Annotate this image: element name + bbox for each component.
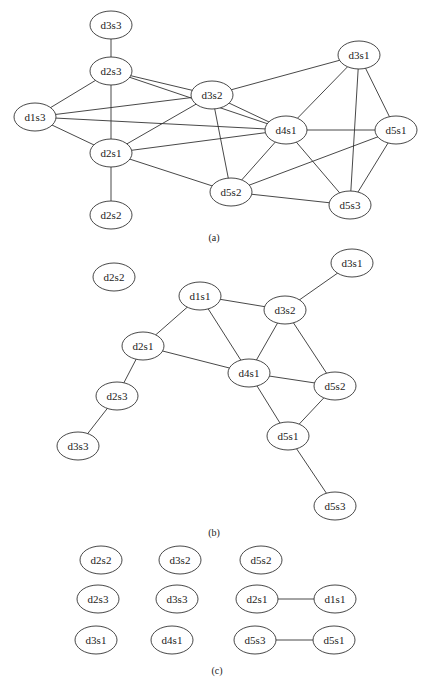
node-label: d1s1 [190, 290, 211, 302]
node-d2s3: d2s3 [90, 57, 132, 85]
panel-c-nodes: d2s2d3s2d5s2d2s3d3s3d2s1d1s1d3s1d4s1d5s3… [75, 546, 356, 654]
node-label: d5s3 [325, 500, 346, 512]
node-d3s1: d3s1 [75, 626, 117, 654]
panel-b-caption: (b) [208, 527, 220, 539]
node-d2s1: d2s1 [122, 332, 164, 360]
node-label: d5s3 [340, 199, 361, 211]
node-label: d3s2 [275, 304, 296, 316]
panel-a-nodes: d3s3d2s3d3s2d3s1d1s3d4s1d5s1d2s1d2s2d5s2… [14, 11, 417, 229]
node-label: d2s1 [101, 147, 122, 159]
node-label: d3s3 [167, 593, 188, 605]
node-label: d3s3 [68, 440, 89, 452]
node-label: d5s1 [386, 124, 407, 136]
node-d2s3: d2s3 [77, 585, 119, 613]
node-label: d5s2 [325, 380, 346, 392]
node-label: d2s1 [247, 593, 268, 605]
node-label: d2s2 [101, 209, 122, 221]
node-label: d1s1 [325, 593, 346, 605]
node-d4s1: d4s1 [228, 359, 270, 387]
node-d3s2: d3s2 [159, 546, 201, 574]
node-label: d2s2 [91, 554, 112, 566]
node-d3s2: d3s2 [264, 296, 306, 324]
node-label: d4s1 [162, 634, 183, 646]
edge-d1s3-d3s2 [35, 95, 212, 117]
node-d5s1: d5s1 [375, 116, 417, 144]
node-label: d3s1 [349, 49, 370, 61]
node-label: d2s3 [101, 65, 122, 77]
node-label: d1s3 [25, 111, 46, 123]
node-d2s3: d2s3 [96, 382, 138, 410]
node-d2s2: d2s2 [93, 263, 135, 291]
node-label: d5s1 [278, 430, 299, 442]
node-d2s1: d2s1 [236, 585, 278, 613]
node-d1s3: d1s3 [14, 103, 56, 131]
edge-d5s1-d5s2 [231, 130, 396, 192]
panel-c-caption: (c) [211, 665, 222, 677]
panel-c: d2s2d3s2d5s2d2s3d3s3d2s1d1s1d3s1d4s1d5s3… [75, 546, 356, 677]
node-d3s1: d3s1 [338, 41, 380, 69]
node-d3s1: d3s1 [331, 249, 373, 277]
node-d2s2: d2s2 [80, 546, 122, 574]
node-label: d2s1 [133, 340, 154, 352]
panel-b: d2s2d3s1d1s1d3s2d2s1d4s1d5s2d2s3d5s1d3s3… [57, 249, 373, 539]
node-label: d4s1 [239, 367, 260, 379]
panel-b-nodes: d2s2d3s1d1s1d3s2d2s1d4s1d5s2d2s3d5s1d3s3… [57, 249, 373, 520]
edge-d2s1-d4s1 [111, 130, 286, 153]
edge-d3s2-d5s2 [212, 95, 231, 192]
node-label: d4s1 [276, 124, 297, 136]
node-d1s1: d1s1 [179, 282, 221, 310]
node-label: d5s2 [221, 186, 242, 198]
node-label: d2s2 [104, 271, 125, 283]
node-d2s2: d2s2 [90, 201, 132, 229]
node-d5s3: d5s3 [234, 626, 276, 654]
node-d4s1: d4s1 [151, 626, 193, 654]
node-label: d5s2 [251, 554, 272, 566]
edge-d3s2-d3s1 [212, 55, 359, 95]
node-d5s2: d5s2 [240, 546, 282, 574]
node-label: d2s3 [88, 593, 109, 605]
node-d5s3: d5s3 [314, 492, 356, 520]
panel-a: d3s3d2s3d3s2d3s1d1s3d4s1d5s1d2s1d2s2d5s2… [14, 11, 417, 244]
node-d5s2: d5s2 [210, 178, 252, 206]
node-label: d3s2 [202, 89, 223, 101]
node-d3s3: d3s3 [156, 585, 198, 613]
node-label: d5s1 [324, 634, 345, 646]
node-label: d3s1 [342, 257, 363, 269]
node-d4s1: d4s1 [265, 116, 307, 144]
node-d3s3: d3s3 [90, 11, 132, 39]
node-label: d3s1 [86, 634, 107, 646]
node-label: d3s2 [170, 554, 191, 566]
node-d3s2: d3s2 [191, 81, 233, 109]
node-d5s3: d5s3 [329, 191, 371, 219]
node-label: d2s3 [107, 390, 128, 402]
node-d5s1: d5s1 [267, 422, 309, 450]
node-d5s1: d5s1 [313, 626, 355, 654]
node-label: d3s3 [101, 19, 122, 31]
node-d5s2: d5s2 [314, 372, 356, 400]
node-d2s1: d2s1 [90, 139, 132, 167]
graph-figure: d3s3d2s3d3s2d3s1d1s3d4s1d5s1d2s1d2s2d5s2… [0, 0, 428, 684]
node-label: d5s3 [245, 634, 266, 646]
edge-d1s3-d4s1 [35, 117, 286, 130]
node-d3s3: d3s3 [57, 432, 99, 460]
panel-a-caption: (a) [208, 232, 219, 244]
node-d1s1: d1s1 [314, 585, 356, 613]
